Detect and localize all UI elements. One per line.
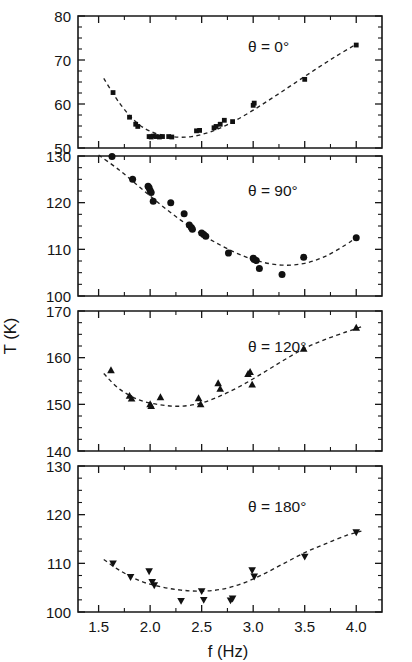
- panel-annotation-theta: θ = 0°: [248, 38, 289, 55]
- data-point-marker: [256, 265, 263, 272]
- data-point-marker: [222, 118, 227, 123]
- data-point-marker: [248, 381, 256, 388]
- data-point-marker: [195, 394, 203, 401]
- chart-panel-1: 100110120130θ = 90°: [46, 148, 382, 305]
- y-tick-label: 80: [54, 8, 71, 25]
- data-point-marker: [157, 393, 165, 400]
- chart-panel-3: 1001101201301.52.02.53.03.54.0θ = 180°: [46, 458, 382, 636]
- data-point-marker: [248, 567, 256, 574]
- data-point-marker: [214, 124, 219, 129]
- fit-curve: [104, 531, 362, 591]
- y-tick-label: 110: [47, 555, 71, 572]
- data-point-marker: [150, 198, 157, 205]
- data-point-marker: [252, 101, 257, 106]
- data-point-marker: [200, 597, 208, 604]
- data-point-marker: [253, 257, 260, 264]
- panel-annotation-theta: θ = 180°: [248, 498, 306, 515]
- data-point-marker: [127, 115, 132, 120]
- data-point-marker: [218, 122, 223, 127]
- panel-frame: [78, 466, 382, 612]
- panel-frame: [78, 16, 382, 148]
- data-point-marker: [169, 135, 174, 140]
- y-tick-label: 110: [47, 241, 71, 258]
- y-axis-title: T (K): [1, 318, 19, 354]
- y-tick-label: 170: [46, 303, 71, 320]
- panel-frame: [78, 311, 382, 451]
- data-point-marker: [230, 119, 235, 124]
- y-tick-label: 120: [46, 506, 71, 523]
- data-point-marker: [198, 588, 206, 595]
- figure-container: 50607080θ = 0°100110120130θ = 90°1401501…: [0, 0, 412, 662]
- data-point-marker: [300, 254, 307, 261]
- data-point-marker: [145, 568, 153, 575]
- data-point-marker: [279, 271, 286, 278]
- data-point-marker: [107, 366, 115, 373]
- x-tick-label: 2.0: [140, 618, 161, 635]
- data-point-marker: [148, 189, 155, 196]
- chart-panel-2: 140150160170θ = 120°: [46, 303, 382, 460]
- data-point-marker: [301, 554, 309, 561]
- data-point-marker: [214, 379, 222, 386]
- y-tick-label: 130: [46, 148, 71, 165]
- panel-annotation-theta: θ = 90°: [248, 182, 298, 199]
- y-tick-label: 160: [46, 349, 71, 366]
- fit-curve: [104, 44, 356, 137]
- data-point-marker: [135, 124, 140, 129]
- panel-annotation-theta: θ = 120°: [248, 338, 306, 355]
- data-point-marker: [302, 77, 307, 82]
- data-point-marker: [189, 226, 196, 233]
- x-tick-label: 1.5: [88, 618, 109, 635]
- data-point-marker: [354, 43, 359, 48]
- x-tick-label: 3.0: [243, 618, 264, 635]
- panel-frame: [78, 156, 382, 296]
- x-tick-label: 3.5: [294, 618, 315, 635]
- data-point-marker: [111, 90, 116, 95]
- panels-layer: 50607080θ = 0°100110120130θ = 90°1401501…: [46, 8, 382, 636]
- chart-panel-0: 50607080θ = 0°: [54, 8, 382, 157]
- y-tick-label: 150: [46, 396, 71, 413]
- data-point-marker: [127, 574, 135, 581]
- data-point-marker: [225, 250, 232, 257]
- data-point-marker: [167, 199, 174, 206]
- data-point-marker: [181, 210, 188, 217]
- x-axis-title: f (Hz): [208, 642, 248, 660]
- data-point-marker: [109, 153, 116, 160]
- data-point-marker: [353, 234, 360, 241]
- y-tick-label: 120: [46, 194, 71, 211]
- x-tick-label: 4.0: [346, 618, 367, 635]
- y-tick-label: 100: [46, 604, 71, 621]
- data-point-marker: [129, 176, 136, 183]
- y-tick-label: 60: [54, 96, 71, 113]
- data-point-marker: [160, 134, 165, 139]
- data-point-marker: [202, 233, 209, 240]
- data-point-marker: [177, 598, 185, 605]
- y-tick-label: 130: [46, 458, 71, 475]
- data-point-marker: [197, 128, 202, 133]
- fit-curve: [99, 155, 357, 265]
- x-tick-label: 2.5: [191, 618, 212, 635]
- y-tick-label: 70: [54, 52, 71, 69]
- multi-panel-scatter-figure: 50607080θ = 0°100110120130θ = 90°1401501…: [0, 0, 412, 662]
- fit-curve: [104, 327, 362, 406]
